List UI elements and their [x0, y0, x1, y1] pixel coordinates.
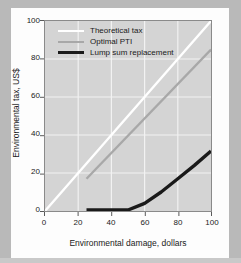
white-line-swatch-icon — [58, 25, 84, 36]
page-band-top — [0, 0, 241, 8]
figure-container: 100 80 60 40 20 0 0 20 40 60 80 100 Envi… — [0, 0, 241, 263]
page-band-bottom — [0, 258, 241, 263]
x-axis-title: Environmental damage, dollars — [44, 238, 212, 248]
x-tick-label-60: 60 — [133, 219, 157, 227]
x-tick-label-40: 40 — [99, 219, 123, 227]
legend-item-theoretical-tax: Theoretical tax — [58, 25, 174, 36]
x-tick-label-0: 0 — [32, 219, 56, 227]
x-tick-label-20: 20 — [66, 219, 90, 227]
gray-line-swatch-icon — [58, 36, 84, 47]
plot-area: Theoretical tax Optimal PTI Lump sum rep… — [44, 20, 212, 212]
legend-label-optimal-pti: Optimal PTI — [90, 37, 132, 46]
page-band-right — [229, 0, 241, 263]
x-tick-label-80: 80 — [166, 219, 190, 227]
y-tick-label-0: 0 — [14, 206, 40, 214]
y-axis-title: Environmental tax, US$ — [11, 33, 21, 193]
legend: Theoretical tax Optimal PTI Lump sum rep… — [58, 25, 174, 58]
legend-label-lump-sum-replacement: Lump sum replacement — [90, 48, 174, 57]
black-line-swatch-icon — [58, 47, 84, 58]
legend-label-theoretical-tax: Theoretical tax — [90, 26, 142, 35]
legend-item-lump-sum-replacement: Lump sum replacement — [58, 47, 174, 58]
legend-item-optimal-pti: Optimal PTI — [58, 36, 174, 47]
page-band-left — [0, 0, 11, 263]
series-optimal-pti — [87, 50, 212, 179]
x-tick-label-100: 100 — [200, 219, 224, 227]
y-tick-label-100: 100 — [14, 17, 40, 25]
